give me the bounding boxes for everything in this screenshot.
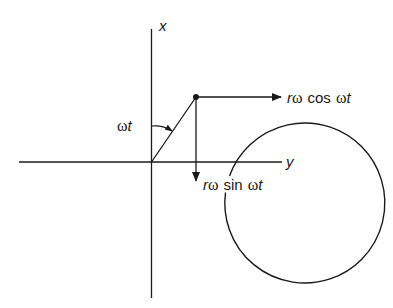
x-axis-label: x <box>158 17 167 34</box>
angle-label: ωt <box>117 117 133 134</box>
angle-t: t <box>128 117 133 134</box>
y-axis-label: y <box>285 153 295 170</box>
cos-component-label: rωcosωt <box>287 89 351 106</box>
rotating-vector-diagram: x y ωt rωcosωt rωsinωt <box>0 0 393 308</box>
sin-func: sin <box>224 176 243 193</box>
angle-arc-arrow <box>152 126 172 131</box>
cos-t: t <box>346 89 351 106</box>
radius-line <box>152 97 197 162</box>
sin-omega2: ω <box>248 176 259 193</box>
angle-omega: ω <box>117 117 128 134</box>
cos-omega2: ω <box>336 89 347 106</box>
cos-omega: ω <box>292 89 303 106</box>
sin-t: t <box>258 176 263 193</box>
cos-func: cos <box>308 89 331 106</box>
circle-path <box>225 123 385 283</box>
sin-component-label: rωsinωt <box>203 176 263 193</box>
sin-omega: ω <box>208 176 219 193</box>
